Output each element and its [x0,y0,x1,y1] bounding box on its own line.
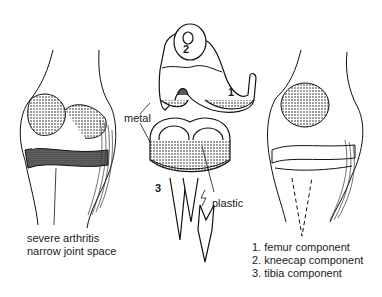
kneecap-number-label: 2 [183,43,189,55]
femur-number-label: 1 [228,86,234,98]
tibia-number-label: 3 [155,182,161,194]
component-legend: 1. femur component 2. kneecap component … [252,241,363,280]
prosthesis-drawing [140,24,256,262]
caption-line-1: severe arthritis [27,232,116,245]
arthritic-knee-drawing [20,50,116,228]
replaced-knee-drawing [268,50,363,236]
legend-item-tibia: 3. tibia component [252,267,363,280]
caption-line-2: narrow joint space [27,245,116,258]
legend-item-kneecap: 2. kneecap component [252,254,363,267]
legend-item-femur: 1. femur component [252,241,363,254]
plastic-label: plastic [212,197,243,210]
metal-label: metal [124,112,151,125]
arthritis-caption: severe arthritis narrow joint space [27,232,116,258]
